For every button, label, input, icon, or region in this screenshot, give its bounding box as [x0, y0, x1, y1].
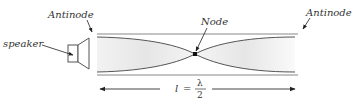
speaker-icon	[68, 38, 89, 69]
fraction-numerator: λ	[197, 78, 203, 88]
antinode-right-label: Antinode	[305, 7, 352, 18]
standing-wave-diagram: Antinode speaker Node Antinode l = λ 2	[0, 0, 355, 104]
right-lobe	[195, 37, 295, 72]
node-point	[193, 52, 197, 56]
antinode-left-arrow	[87, 20, 92, 32]
antinode-left-label: Antinode	[47, 9, 94, 20]
length-dimension: l = λ 2	[100, 78, 295, 100]
fraction-denominator: 2	[197, 90, 203, 100]
node-arrow	[196, 28, 207, 51]
speaker-label: speaker	[3, 38, 44, 49]
length-variable: l	[175, 83, 178, 94]
left-lobe	[97, 37, 195, 72]
equals-sign: =	[183, 83, 191, 94]
antinode-right-arrow	[303, 18, 310, 29]
node-label: Node	[200, 16, 228, 27]
